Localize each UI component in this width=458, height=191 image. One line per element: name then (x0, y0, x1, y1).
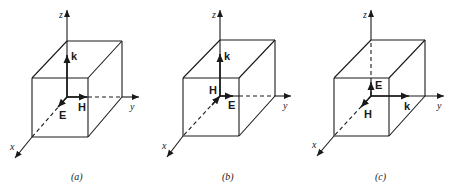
E-vector-label-b: E (228, 100, 235, 111)
cube-edge-b (183, 40, 220, 78)
caption-a: (a) (71, 172, 83, 182)
E-vector-arrow-a (58, 97, 67, 107)
k-vector-label-c: k (404, 101, 410, 112)
cube-edge-a (88, 41, 122, 78)
cube-edge-b (239, 96, 275, 136)
cube-edge-c (334, 40, 371, 78)
H-vector-label-b: H (209, 85, 217, 96)
E-vector-label-c: E (375, 80, 382, 91)
y-axis-label-a: y (130, 102, 134, 112)
x-axis-label-c: x (312, 140, 316, 150)
cube-edge-a (88, 97, 122, 137)
x-axis-b (167, 136, 183, 157)
H-vector-label-c: H (364, 109, 372, 120)
figure: z y x k E H (a) z y x k E H (b) z y x k … (0, 0, 458, 191)
H-vector-label-a: H (78, 102, 86, 113)
y-axis-label-c: y (437, 101, 441, 111)
caption-c: (c) (375, 172, 386, 182)
x-axis-label-a: x (10, 142, 14, 152)
x-axis-label-b: x (162, 141, 166, 151)
cube-edge-b (239, 40, 275, 78)
x-axis-a (15, 137, 32, 158)
E-vector-label-a: E (59, 110, 66, 121)
k-vector-label-a: k (71, 51, 77, 62)
k-vector-label-b: k (224, 51, 230, 62)
x-axis-c (317, 136, 334, 156)
y-axis-label-b: y (283, 101, 287, 111)
cube-edge-c (389, 40, 425, 78)
caption-b: (b) (222, 172, 234, 182)
z-axis-label-c: z (363, 10, 367, 20)
z-axis-label-a: z (59, 10, 63, 20)
z-axis-label-b: z (212, 10, 216, 20)
H-vector-arrow-b (212, 96, 220, 105)
cube-edge-a (32, 41, 67, 78)
H-vector-arrow-c (361, 96, 371, 107)
cube-diagrams (0, 0, 458, 191)
